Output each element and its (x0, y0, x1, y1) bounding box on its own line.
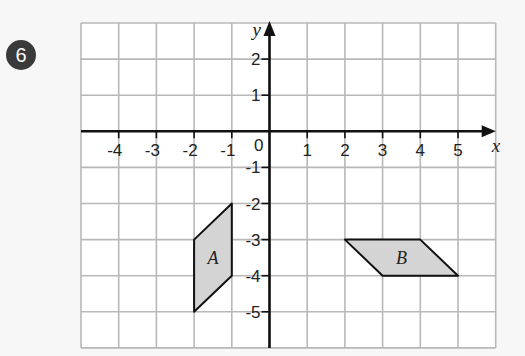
x-axis-label: x (491, 135, 501, 156)
x-tick-label: 1 (302, 141, 311, 160)
x-tick-label: 2 (340, 141, 349, 160)
y-tick-label: 1 (251, 86, 260, 105)
x-tick-label: 4 (416, 141, 425, 160)
x-tick-label: -4 (107, 141, 122, 160)
y-tick-label: -2 (245, 195, 260, 214)
grid-background (81, 23, 496, 348)
y-tick-label: -5 (245, 303, 260, 322)
x-tick-label: 5 (453, 141, 462, 160)
x-tick-label: -1 (220, 141, 235, 160)
shape-label-a: A (206, 248, 219, 268)
shape-label-b: B (396, 248, 407, 268)
x-tick-label: 3 (378, 141, 387, 160)
y-tick-label: -3 (245, 231, 260, 250)
x-tick-label: -2 (183, 141, 198, 160)
y-axis-label: y (251, 19, 262, 40)
y-tick-label: -1 (245, 158, 260, 177)
y-tick-label: 2 (251, 50, 260, 69)
coordinate-grid: AB-4-3-2-11234521-1-2-3-4-50xy (0, 0, 525, 356)
x-tick-label: -3 (145, 141, 160, 160)
y-tick-label: -4 (245, 267, 260, 286)
origin-label: 0 (254, 136, 263, 155)
